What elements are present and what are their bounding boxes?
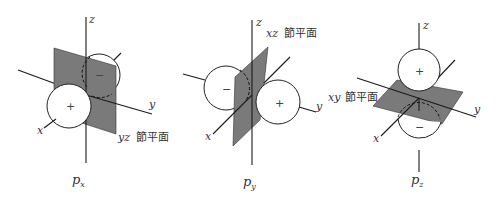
z-axis-label: z (422, 19, 429, 32)
y-axis-label: y (148, 98, 156, 111)
y-axis-label: y (315, 100, 323, 113)
z-axis-label: z (255, 16, 262, 29)
x-axis-label: x (205, 130, 212, 143)
orbital-label: px (72, 172, 85, 189)
negative-sign: − (95, 69, 104, 82)
nodal-plane-label: xz 節平面 (266, 23, 317, 40)
y-axis (299, 107, 316, 112)
positive-sign: + (66, 100, 75, 113)
diagram-px: + − z y x yz 節平面 px (18, 13, 169, 189)
positive-sign: + (275, 97, 284, 110)
x-axis-label: x (373, 132, 380, 145)
p-orbitals-figure: + − z y x yz 節平面 px − + z y x (0, 0, 496, 199)
x-axis-back (114, 53, 121, 60)
y-axis-label: y (473, 103, 481, 116)
nodal-plane-label: xy 節平面 (328, 87, 378, 104)
orbital-label: py (243, 174, 256, 191)
y-axis-back (183, 74, 205, 80)
x-axis-label: x (37, 124, 44, 137)
orbital-label: pz (411, 172, 424, 189)
z-axis-label: z (88, 13, 95, 26)
negative-sign: − (222, 83, 231, 96)
x-axis (44, 119, 56, 128)
nodal-plane-label: yz 節平面 (117, 127, 169, 144)
negative-sign: − (415, 121, 424, 134)
orbital-diagrams-svg: + − z y x yz 節平面 px − + z y x (0, 0, 496, 199)
diagram-py: − + z y x xz 節平面 py (183, 16, 323, 191)
positive-sign: + (415, 65, 424, 78)
diagram-pz: + − z y x xy 節平面 pz (328, 19, 481, 189)
